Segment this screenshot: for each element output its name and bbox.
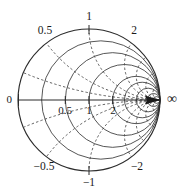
perimeter-label-neg1: −1	[83, 176, 95, 188]
axis-label-2: 2	[110, 104, 116, 116]
smith-chart: 0 0.5 1 2 ∞ 0.5 1 2 −0.5 −1 −2	[0, 0, 182, 194]
axis-label-infinity: ∞	[167, 91, 177, 106]
reactance-arc-1	[89, 0, 182, 100]
perimeter-label-neg2: −2	[131, 160, 143, 172]
perimeter-label-2: 2	[131, 24, 137, 36]
axis-label-1: 1	[86, 104, 92, 116]
axis-label-0p5: 0.5	[58, 104, 72, 116]
axis-label-0: 0	[7, 93, 13, 105]
perimeter-label-1: 1	[86, 10, 92, 22]
perimeter-label-neg0p5: −0.5	[34, 160, 55, 172]
reactance-arc-neg1	[89, 100, 182, 194]
smith-chart-canvas: 0 0.5 1 2 ∞ 0.5 1 2 −0.5 −1 −2	[0, 0, 182, 194]
perimeter-label-0p5: 0.5	[38, 24, 53, 36]
